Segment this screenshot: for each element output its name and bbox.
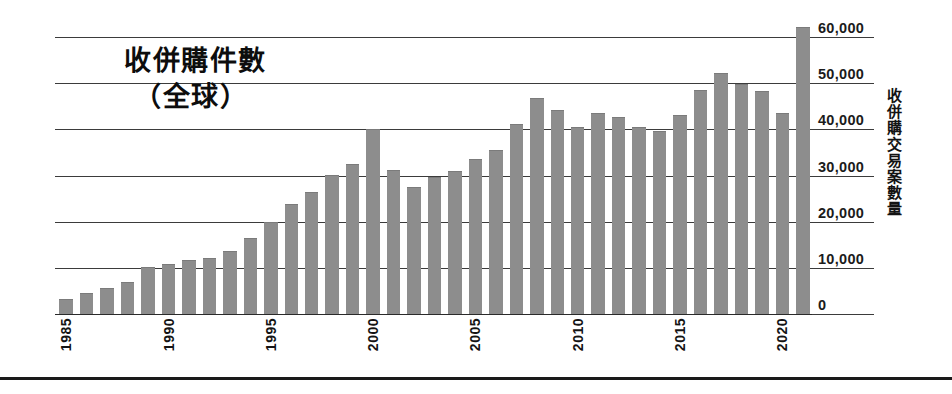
bar-1994 <box>244 238 258 314</box>
y-axis-title: 收併購交易案數量 <box>882 88 906 218</box>
bar-2012 <box>612 117 626 314</box>
bar-2000 <box>366 129 380 314</box>
x-tick-label-2010: 2010 <box>570 318 586 351</box>
bar-chart: 收併購件數 （全球） 010,00020,00030,00040,00050,0… <box>0 0 952 394</box>
y-tick-label-20000: 20,000 <box>818 205 864 221</box>
bar-1986 <box>80 293 94 314</box>
bar-1997 <box>305 192 319 314</box>
y-tick-label-10000: 10,000 <box>818 251 864 267</box>
bar-2004 <box>448 171 462 314</box>
y-tick-rule-60000 <box>812 37 874 38</box>
x-tick-label-1995: 1995 <box>263 318 279 351</box>
y-tick-rule-0 <box>812 314 874 315</box>
bar-2009 <box>551 110 565 314</box>
bar-1998 <box>325 175 339 315</box>
bar-1985 <box>59 299 73 314</box>
bar-2003 <box>428 177 442 314</box>
bar-2020 <box>776 113 790 314</box>
bar-2021 <box>796 27 810 314</box>
bar-1991 <box>182 260 196 314</box>
bar-2002 <box>407 187 421 314</box>
chart-title: 收併購件數 （全球） <box>118 44 418 115</box>
bar-1992 <box>203 258 217 314</box>
y-tick-rule-40000 <box>812 129 874 130</box>
bar-2007 <box>510 124 524 314</box>
bar-2001 <box>387 170 401 314</box>
bar-1996 <box>285 204 299 314</box>
x-tick-label-2015: 2015 <box>672 318 688 351</box>
bar-2006 <box>489 150 503 314</box>
bar-1990 <box>162 264 176 314</box>
x-tick-label-2005: 2005 <box>467 318 483 351</box>
y-tick-rule-30000 <box>812 176 874 177</box>
bar-1999 <box>346 164 360 314</box>
bar-2019 <box>755 91 769 314</box>
bar-2013 <box>632 127 646 315</box>
bar-2014 <box>653 131 667 314</box>
bar-1987 <box>100 288 114 314</box>
bar-2010 <box>571 127 585 314</box>
y-tick-label-30000: 30,000 <box>818 159 864 175</box>
bar-2008 <box>530 98 544 314</box>
bar-2016 <box>694 90 708 314</box>
y-tick-rule-50000 <box>812 83 874 84</box>
x-axis-ticks: 19851990199520002005201020152020 <box>55 318 812 378</box>
y-tick-rule-10000 <box>812 268 874 269</box>
bar-1993 <box>223 251 237 314</box>
y-tick-rule-20000 <box>812 222 874 223</box>
y-tick-label-50000: 50,000 <box>818 66 864 82</box>
bar-1989 <box>141 267 155 314</box>
x-tick-label-1985: 1985 <box>58 318 74 351</box>
bar-2017 <box>714 73 728 314</box>
bar-1988 <box>121 282 135 314</box>
y-tick-label-60000: 60,000 <box>818 20 864 36</box>
x-tick-label-2000: 2000 <box>365 318 381 351</box>
chart-title-line-2: （全球） <box>118 80 418 116</box>
bar-1995 <box>264 222 278 314</box>
bar-2011 <box>591 113 605 314</box>
bar-2015 <box>673 115 687 314</box>
bottom-divider <box>0 377 952 380</box>
y-tick-label-40000: 40,000 <box>818 112 864 128</box>
y-tick-label-0: 0 <box>818 297 826 313</box>
x-tick-label-1990: 1990 <box>161 318 177 351</box>
axis-baseline <box>55 314 812 315</box>
chart-title-line-1: 收併購件數 <box>118 44 418 80</box>
bar-2018 <box>735 84 749 314</box>
bar-2005 <box>469 159 483 314</box>
x-tick-label-2020: 2020 <box>774 318 790 351</box>
